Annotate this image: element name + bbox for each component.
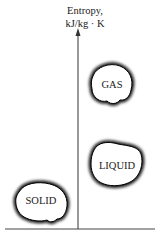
phase-label-solid: SOLID <box>26 195 57 206</box>
y-axis <box>76 28 81 229</box>
phase-blob-gas: GAS <box>91 65 132 104</box>
phase-label-liquid: LIQUID <box>99 160 136 171</box>
phase-blob-solid: SOLID <box>16 183 67 222</box>
phase-blob-liquid: LIQUID <box>91 142 142 185</box>
phase-label-gas: GAS <box>101 79 122 90</box>
phase-entropy-diagram: GAS LIQUID SOLID <box>0 0 162 237</box>
arrow-up-icon <box>76 28 81 36</box>
